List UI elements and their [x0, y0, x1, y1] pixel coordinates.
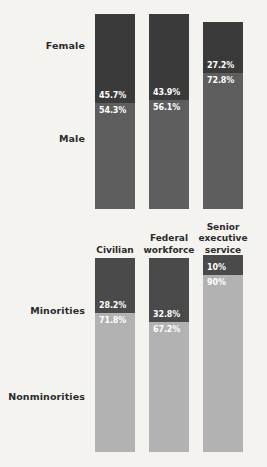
segment-label-male: 56.1% — [153, 103, 180, 112]
column-header-line: executive — [196, 233, 250, 245]
segment-female: 43.9% — [149, 14, 189, 100]
segment-label-nonminorities: 90% — [207, 278, 226, 287]
row-label-female: Female — [46, 40, 85, 51]
segment-minorities: 32.8% — [149, 258, 189, 322]
gender-chart-panel: Female Male 45.7% 54.3% 43.9% 56.1% 27.2… — [0, 0, 267, 212]
bar-race-federal-workforce[interactable]: 32.8% 67.2% — [149, 258, 189, 452]
row-label-nonminorities: Nonminorities — [8, 391, 85, 402]
segment-label-minorities: 28.2% — [99, 301, 126, 310]
segment-minorities: 10% — [203, 255, 243, 275]
segment-female: 27.2% — [203, 22, 243, 73]
segment-label-minorities: 32.8% — [153, 310, 180, 319]
row-label-male: Male — [59, 133, 85, 144]
segment-label-nonminorities: 71.8% — [99, 316, 126, 325]
segment-nonminorities: 71.8% — [95, 313, 135, 452]
segment-male: 72.8% — [203, 73, 243, 209]
segment-male: 54.3% — [95, 103, 135, 209]
race-chart-panel: Minorities Nonminorities 28.2% 71.8% 32.… — [0, 255, 267, 467]
segment-minorities: 28.2% — [95, 258, 135, 313]
row-label-minorities: Minorities — [30, 305, 85, 316]
segment-label-female: 43.9% — [153, 88, 180, 97]
segment-nonminorities: 67.2% — [149, 322, 189, 452]
bar-gender-federal-workforce[interactable]: 43.9% 56.1% — [149, 14, 189, 209]
bar-gender-senior-executive-service[interactable]: 27.2% 72.8% — [203, 22, 243, 209]
segment-male: 56.1% — [149, 100, 189, 209]
segment-label-male: 72.8% — [207, 76, 234, 85]
segment-nonminorities: 90% — [203, 275, 243, 452]
column-header-line: Senior — [196, 222, 250, 234]
segment-label-nonminorities: 67.2% — [153, 325, 180, 334]
segment-female: 45.7% — [95, 14, 135, 103]
bar-gender-civilian[interactable]: 45.7% 54.3% — [95, 14, 135, 209]
column-headers: Civilian Federal workforce Senior execut… — [0, 214, 267, 256]
column-header-federal-workforce: Federal workforce — [142, 233, 196, 256]
stacked-bar-chart-figure: Female Male 45.7% 54.3% 43.9% 56.1% 27.2… — [0, 0, 267, 467]
bar-race-senior-executive-service[interactable]: 10% 90% — [203, 255, 243, 452]
bar-race-civilian[interactable]: 28.2% 71.8% — [95, 258, 135, 452]
column-header-line: Federal — [142, 233, 196, 245]
column-header-senior-executive-service: Senior executive service — [196, 222, 250, 257]
segment-label-female: 45.7% — [99, 91, 126, 100]
segment-label-minorities: 10% — [207, 263, 226, 272]
segment-label-male: 54.3% — [99, 106, 126, 115]
segment-label-female: 27.2% — [207, 61, 234, 70]
